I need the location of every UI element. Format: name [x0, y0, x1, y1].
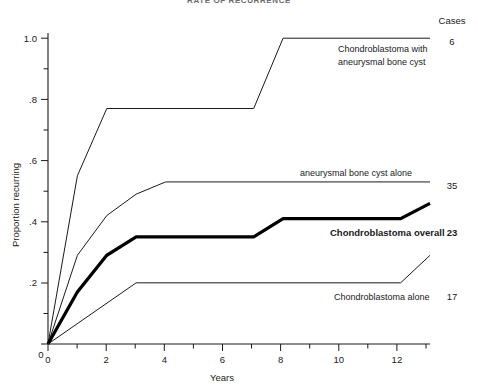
series-label-chondroblastoma-with-abc-line1: Chondroblastoma with	[338, 44, 428, 54]
x-tick-label: 8	[278, 354, 283, 365]
x-tick-label: 4	[162, 354, 167, 365]
y-tick-label: .8	[29, 94, 37, 105]
y-tick-label: .6	[29, 155, 37, 166]
figure-container: RATE OF RECURRENCE 1.0 .8 .6 .4	[0, 0, 478, 392]
recurrence-line-chart: 1.0 .8 .6 .4 .2 0 Proportion recurring	[0, 0, 478, 392]
series-curve-2	[48, 203, 430, 344]
y-axis-minor-ticks	[44, 69, 49, 314]
x-tick-label: 0	[45, 354, 50, 365]
y-axis-title: Proportion recurring	[10, 163, 21, 247]
y-tick-label: 0	[38, 349, 43, 360]
cases-value-chondroblastoma-overall: 23	[447, 227, 458, 238]
x-tick-label: 12	[392, 354, 403, 365]
cases-value-abc-alone: 35	[447, 180, 458, 191]
x-tick-label: 6	[220, 354, 225, 365]
y-tick-label: .4	[29, 216, 37, 227]
x-tick-label: 2	[104, 354, 109, 365]
cases-value-chondroblastoma-alone: 17	[447, 291, 458, 302]
series-label-chondroblastoma-with-abc-line2: aneurysmal bone cyst	[338, 57, 426, 67]
cases-value-chondroblastoma-with-abc: 6	[449, 36, 454, 47]
series-label-chondroblastoma-alone: Chondroblastoma alone	[334, 292, 430, 302]
y-axis-tick-labels: 1.0 .8 .6 .4 .2 0	[24, 33, 44, 361]
x-axis-tick-labels: 0 2 4 6 8 10 12	[45, 354, 402, 365]
x-axis-minor-ticks	[77, 344, 426, 349]
x-axis-title: Years	[210, 372, 234, 383]
cases-column-header: Cases	[439, 15, 466, 26]
series-curve-1	[48, 182, 430, 344]
x-tick-label: 10	[334, 354, 345, 365]
y-tick-label: .2	[29, 277, 37, 288]
series-label-chondroblastoma-overall: Chondroblastoma overall	[330, 227, 445, 238]
x-axis-major-ticks	[48, 344, 397, 351]
series-label-abc-alone: aneurysmal bone cyst alone	[300, 168, 412, 178]
y-tick-label: 1.0	[24, 33, 37, 44]
